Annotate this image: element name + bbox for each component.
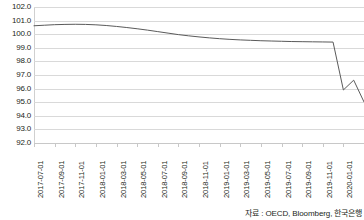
y-axis-tick-label: 102.0 xyxy=(0,3,31,11)
y-axis-tick-label: 94.0 xyxy=(0,112,31,120)
x-axis-tick-labels: 2017-07-012017-09-012017-11-012018-01-01… xyxy=(0,146,364,202)
x-axis-tick-label: 2019-07-01 xyxy=(285,161,293,198)
x-axis-tick-label: 2018-03-01 xyxy=(120,161,128,198)
x-axis-tick-label: 2017-09-01 xyxy=(58,161,66,198)
x-axis-tick-label: 2019-01-01 xyxy=(223,161,231,198)
x-axis-tick-label: 2019-05-01 xyxy=(264,161,272,198)
y-axis-tick-label: 93.0 xyxy=(0,125,31,133)
x-axis-tick-label: 2018-07-01 xyxy=(161,161,169,198)
y-axis-tick-label: 97.0 xyxy=(0,71,31,79)
y-axis-tick-label: 98.0 xyxy=(0,57,31,65)
x-axis-tick-label: 2018-01-01 xyxy=(99,161,107,198)
line-chart: 102.0101.0100.099.098.097.096.095.094.09… xyxy=(0,0,364,220)
x-axis-tick-label: 2020-01-01 xyxy=(346,161,354,198)
y-axis-tick-label: 101.0 xyxy=(0,17,31,25)
y-axis-tick-label: 96.0 xyxy=(0,85,31,93)
y-axis-tick-label: 99.0 xyxy=(0,44,31,52)
x-axis-tick-label: 2019-03-01 xyxy=(243,161,251,198)
y-axis-tick-label: 100.0 xyxy=(0,30,31,38)
x-axis-tick-label: 2017-07-01 xyxy=(37,161,45,198)
series-line xyxy=(34,7,364,143)
x-axis-tick-label: 2017-11-01 xyxy=(78,161,86,198)
x-axis-tick-label: 2018-11-01 xyxy=(202,161,210,198)
x-axis-tick-label: 2019-09-01 xyxy=(305,161,313,198)
plot-area xyxy=(34,7,364,143)
x-axis-tick-label: 2018-09-01 xyxy=(181,161,189,198)
x-axis-tick-label: 2018-05-01 xyxy=(140,161,148,198)
x-axis-tick-label: 2019-11-01 xyxy=(326,161,334,198)
source-note: 자료 : OECD, Bloomberg, 한국은행 xyxy=(245,209,362,219)
y-axis-tick-label: 95.0 xyxy=(0,98,31,106)
